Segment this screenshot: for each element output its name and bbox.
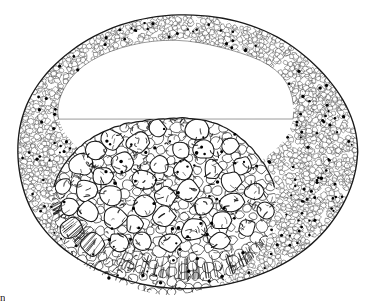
caption-fragment: n [0,292,5,303]
figure-root: n [0,0,369,307]
blastula-section-drawing [0,0,369,307]
